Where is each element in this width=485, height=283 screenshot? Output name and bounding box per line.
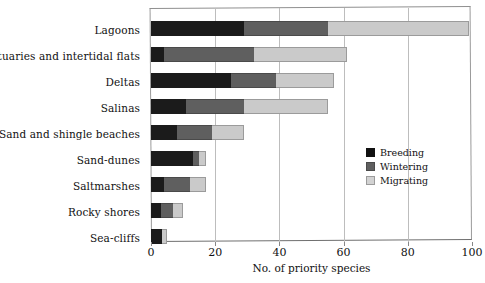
legend-label: Breeding — [380, 148, 424, 158]
legend-item-wintering: Wintering — [366, 160, 444, 173]
bar-segment-breeding — [151, 99, 186, 114]
chart-legend: Breeding Wintering Migrating — [366, 146, 444, 188]
x-axis-tick-label: 80 — [401, 246, 415, 259]
bar-segment-migrating — [276, 73, 334, 88]
bar-row — [151, 151, 206, 166]
category-label: Deltas — [106, 77, 140, 88]
y-axis-category-labels: Lagoons Estuaries and intertidal flats D… — [0, 12, 144, 246]
bar-segment-migrating — [190, 177, 206, 192]
bar-segment-breeding — [151, 21, 244, 36]
bar-segment-wintering — [164, 177, 190, 192]
bar-segment-breeding — [151, 203, 161, 218]
legend-item-migrating: Migrating — [366, 174, 444, 187]
bar-series-group — [151, 8, 472, 242]
bar-segment-breeding — [151, 125, 177, 140]
bar-segment-migrating — [173, 203, 183, 218]
x-axis-tick-label: 40 — [272, 246, 286, 259]
bar-segment-migrating — [212, 125, 244, 140]
bar-segment-migrating — [199, 151, 205, 166]
category-label: Salinas — [101, 103, 140, 114]
bar-chart-figure: Lagoons Estuaries and intertidal flats D… — [0, 0, 485, 283]
bar-segment-wintering — [231, 73, 276, 88]
x-axis-tick-label: 100 — [462, 246, 483, 259]
legend-swatch-icon — [366, 176, 375, 185]
bar-row — [151, 73, 334, 88]
bar-segment-migrating — [328, 21, 469, 36]
category-label: Sea-cliffs — [90, 233, 140, 244]
legend-label: Wintering — [380, 162, 428, 172]
x-axis: 020406080100 No. of priority species — [151, 242, 472, 282]
bar-row — [151, 203, 183, 218]
bar-segment-breeding — [151, 47, 164, 62]
bar-row — [151, 47, 347, 62]
bar-segment-wintering — [164, 47, 254, 62]
bar-segment-breeding — [151, 177, 164, 192]
legend-item-breeding: Breeding — [366, 146, 444, 159]
bar-segment-breeding — [151, 151, 193, 166]
bar-segment-wintering — [186, 99, 244, 114]
category-label: Rocky shores — [68, 207, 140, 218]
x-axis-tick-label: 60 — [337, 246, 351, 259]
x-axis-tick-label: 0 — [148, 246, 155, 259]
plot-area — [151, 8, 472, 242]
bar-segment-wintering — [244, 21, 327, 36]
legend-swatch-icon — [366, 148, 375, 157]
legend-swatch-icon — [366, 162, 375, 171]
category-label: Sand and shingle beaches — [0, 129, 140, 140]
bar-row — [151, 21, 469, 36]
bar-segment-wintering — [177, 125, 212, 140]
bar-segment-breeding — [151, 73, 231, 88]
bar-segment-migrating — [244, 99, 327, 114]
bar-row — [151, 177, 206, 192]
bar-segment-wintering — [161, 203, 174, 218]
bar-row — [151, 99, 328, 114]
bar-segment-migrating — [254, 47, 347, 62]
category-label: Sand-dunes — [77, 155, 140, 166]
bar-row — [151, 125, 244, 140]
x-axis-tick-label: 20 — [208, 246, 222, 259]
category-label: Lagoons — [95, 25, 140, 36]
category-label: Estuaries and intertidal flats — [0, 51, 140, 62]
x-axis-title: No. of priority species — [151, 262, 472, 274]
category-label: Saltmarshes — [73, 181, 140, 192]
legend-label: Migrating — [380, 176, 428, 186]
